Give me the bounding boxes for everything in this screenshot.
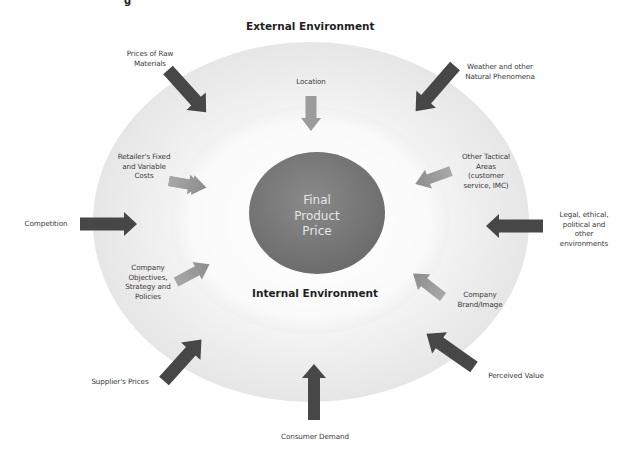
label-perceived-value: Perceived Value <box>476 371 556 381</box>
external-environment-title: External Environment <box>246 20 375 32</box>
label-competition: Competition <box>14 219 78 229</box>
internal-environment-title: Internal Environment <box>252 287 378 299</box>
label-company-objectives: Company Objectives, Strategy and Policie… <box>116 263 180 301</box>
label-legal: Legal, ethical, political and other envi… <box>546 210 622 248</box>
label-brand-image: Company Brand/Image <box>450 290 510 309</box>
label-location: Location <box>286 77 336 87</box>
label-raw-materials: Prices of Raw Materials <box>110 49 190 68</box>
final-product-price-label: Final Product Price <box>282 193 352 240</box>
label-weather: Weather and other Natural Phenomena <box>452 62 548 81</box>
pricing-factors-diagram: g <box>0 0 626 456</box>
label-consumer-demand: Consumer Demand <box>270 432 360 442</box>
label-other-tactical: Other Tactical Areas (customer service, … <box>450 152 522 190</box>
label-supplier-prices: Supplier's Prices <box>80 377 160 387</box>
label-retailer-costs: Retailer's Fixed and Variable Costs <box>108 152 180 181</box>
